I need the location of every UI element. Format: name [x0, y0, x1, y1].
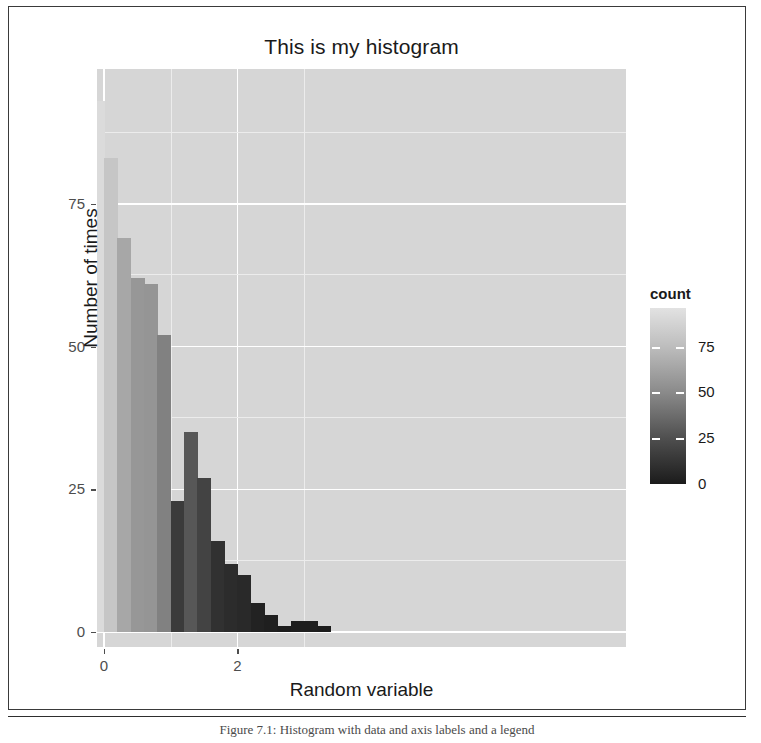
legend-tick-label: 75	[698, 338, 715, 355]
figure-caption: Figure 7.1: Histogram with data and axis…	[8, 722, 746, 738]
legend-tick-mark-right	[676, 347, 684, 349]
legend-tick-mark-left	[652, 438, 660, 440]
histogram-bar	[237, 575, 251, 632]
histogram-bar	[291, 621, 305, 632]
y-axis-tick-label: 0	[47, 623, 85, 640]
gridline-y-major	[97, 346, 626, 348]
histogram-bar	[304, 621, 318, 632]
x-axis-tick-label: 0	[84, 657, 124, 674]
x-axis-tick-mark	[237, 649, 238, 654]
legend-tick-mark-right	[676, 484, 684, 486]
gridline-y-minor	[97, 417, 626, 418]
page-title: This is my histogram	[97, 35, 626, 59]
histogram-bar	[144, 284, 158, 632]
legend-title: count	[650, 285, 745, 302]
legend-tick-mark-right	[676, 438, 684, 440]
histogram-bar	[131, 278, 145, 632]
figure-frame: This is my histogram 0255075 -4-202 Numb…	[8, 6, 746, 710]
gridline-y-minor	[97, 274, 626, 275]
histogram-bar	[157, 335, 171, 632]
histogram-bar	[211, 541, 225, 632]
y-axis-label: Number of times	[80, 178, 102, 378]
legend-tick-mark-left	[652, 392, 660, 394]
histogram-bar	[171, 501, 185, 632]
legend: count 7550250	[650, 285, 745, 484]
legend-tick-label: 50	[698, 383, 715, 400]
gridline-y-minor	[97, 132, 626, 133]
histogram-bar	[264, 615, 278, 632]
histogram-bar	[224, 564, 238, 632]
plot-panel	[97, 69, 626, 647]
x-axis-tick-mark	[104, 649, 105, 654]
histogram-bar	[277, 626, 291, 632]
chart-plot-area: This is my histogram 0255075 -4-202 Numb…	[9, 7, 745, 709]
legend-tick-label: 0	[698, 475, 706, 492]
histogram-bar	[251, 603, 265, 632]
legend-gradient-bar	[650, 308, 686, 484]
x-axis-tick-label: 2	[217, 657, 257, 674]
legend-colorbar-wrapper: 7550250	[650, 308, 740, 484]
legend-tick-label: 25	[698, 429, 715, 446]
y-axis-tick-mark	[91, 632, 96, 633]
histogram-bar	[317, 626, 331, 632]
histogram-bar	[197, 478, 211, 632]
caption-divider	[8, 716, 746, 717]
legend-tick-mark-left	[652, 484, 660, 486]
gridline-y-major	[97, 203, 626, 205]
y-axis-tick-label: 25	[47, 480, 85, 497]
histogram-bar	[117, 238, 131, 632]
histogram-bar	[104, 158, 118, 632]
y-axis-tick-mark	[91, 489, 96, 490]
gridline-y-major	[97, 489, 626, 491]
legend-tick-mark-right	[676, 392, 684, 394]
legend-tick-mark-left	[652, 347, 660, 349]
histogram-bar	[184, 432, 198, 632]
x-axis-label: Random variable	[97, 679, 626, 701]
